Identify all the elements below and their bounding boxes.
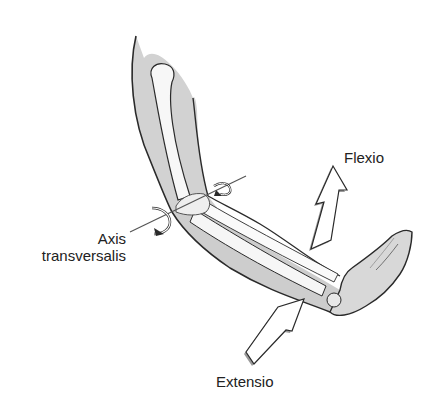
axis-label-line2: transversalis xyxy=(28,247,126,264)
elbow-diagram xyxy=(0,0,438,417)
axis-label-line1: Axis xyxy=(28,230,126,247)
extension-arrow xyxy=(244,299,304,366)
rotation-arrow-left xyxy=(152,208,170,236)
hand xyxy=(327,230,412,315)
flexion-arrow xyxy=(309,166,347,251)
extension-label: Extensio xyxy=(216,373,274,390)
transverse-axis-label: Axis transversalis xyxy=(28,230,126,264)
flexion-label: Flexio xyxy=(344,149,384,166)
